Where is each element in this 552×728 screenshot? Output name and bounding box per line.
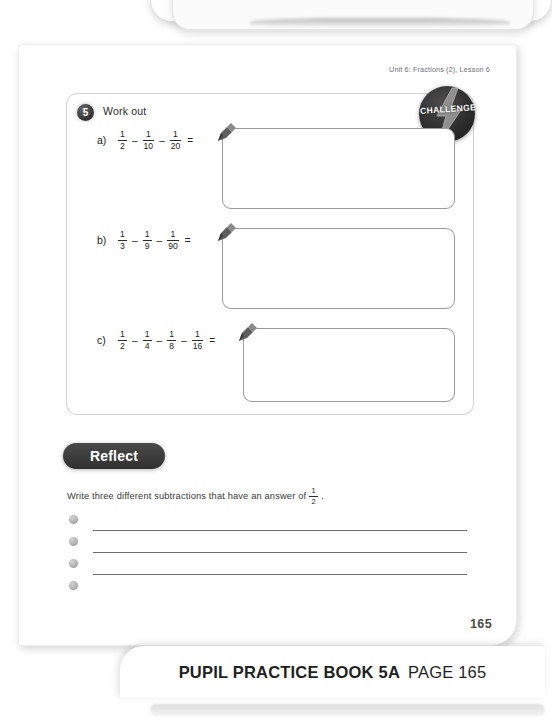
part-b-label: b) [97,234,106,246]
operator: – [132,335,138,346]
bullet-dot [69,581,78,590]
question-title: Work out [103,105,146,117]
part-c-label: c) [97,334,106,346]
fraction: 1 20 [170,130,182,151]
reflect-heading-label: Reflect [90,448,138,464]
operator: – [181,335,187,346]
fraction: 1 2 [118,330,127,351]
bullet-dot [69,537,78,546]
page-edge-shadow [250,18,510,28]
footer-page-label: PAGE 165 [408,663,486,682]
pencil-icon [236,322,258,344]
pencil-icon [215,122,237,144]
bullet-dot [69,559,78,568]
reflect-prompt: Write three different subtractions that … [67,487,324,505]
answer-box-a[interactable] [222,128,455,209]
equals-sign: = [185,235,191,246]
reflect-prompt-period: . [321,491,324,501]
fraction: 1 2 [118,130,127,151]
equals-sign: = [209,335,215,346]
operator: – [132,135,138,146]
writing-line[interactable] [93,552,467,553]
pencil-icon [215,222,237,244]
unit-label: Unit 6: Fractions (2), Lesson 6 [389,65,490,74]
part-b-expression: 1 3 – 1 9 – 1 90 = [117,230,191,251]
question-panel: 5 Work out CHALLENGE a) 1 2 – 1 [66,93,474,415]
answer-box-c[interactable] [243,328,455,402]
operator: – [157,235,163,246]
reflect-answer-area [63,511,473,593]
writing-line[interactable] [93,574,467,575]
footer-banner: PUPIL PRACTICE BOOK 5A PAGE 165 [120,646,545,698]
workbook-page: Unit 6: Fractions (2), Lesson 6 5 Work o… [18,44,517,646]
answer-box-b[interactable] [222,228,455,309]
page-number: 165 [470,617,492,631]
fraction: 1 90 [167,230,179,251]
reflect-heading: Reflect [63,443,165,469]
part-a-label: a) [97,134,106,146]
operator: – [159,135,165,146]
question-number-badge: 5 [77,104,94,121]
fraction: 1 2 [309,487,318,505]
equals-sign: = [187,135,193,146]
fraction: 1 16 [192,330,204,351]
bullet-dot [69,515,78,524]
reflect-prompt-text: Write three different subtractions that … [67,491,306,501]
fraction: 1 4 [143,330,152,351]
part-a-expression: 1 2 – 1 10 – 1 20 = [117,130,193,151]
operator: – [132,235,138,246]
fraction: 1 10 [143,130,155,151]
writing-line[interactable] [93,530,467,531]
operator: – [157,335,163,346]
footer-edge-shadow [150,704,545,716]
fraction: 1 3 [118,230,127,251]
fraction: 1 9 [143,230,152,251]
fraction: 1 8 [167,330,176,351]
footer-book-title: PUPIL PRACTICE BOOK 5A [179,663,400,682]
part-c-expression: 1 2 – 1 4 – 1 8 – 1 [117,330,215,351]
